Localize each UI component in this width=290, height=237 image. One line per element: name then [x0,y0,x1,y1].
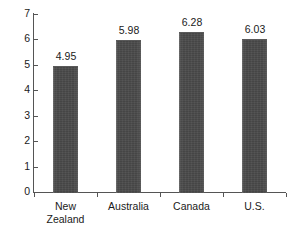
y-axis-tick [34,65,38,66]
bar-value-label: 4.95 [46,51,86,62]
bar [179,32,204,193]
bar [116,40,141,193]
y-axis-tick-label: 2 [12,135,30,146]
y-axis-tick [34,116,38,117]
bar-value-label: 6.03 [235,24,275,35]
bar-value-label: 5.98 [109,25,149,36]
x-axis-category-label: U.S. [223,200,286,213]
y-axis-tick-label: 1 [12,161,30,172]
x-axis-tick [160,193,161,197]
y-axis-tick-label: 3 [12,110,30,121]
y-axis-tick-label: 5 [12,59,30,70]
y-axis-tick [34,141,38,142]
x-axis-category-label: NewZealand [34,200,97,226]
bar [53,66,78,193]
y-axis-tick-label: 0 [12,186,30,197]
y-axis-tick-label: 6 [12,33,30,44]
category-label-line: U.S. [244,200,264,212]
y-axis-tick [34,90,38,91]
y-axis-tick-label: 7 [12,8,30,19]
bar-value-label: 6.28 [172,17,212,28]
y-axis-tick [34,14,38,15]
category-label-line: Australia [108,200,149,212]
x-axis-category-label: Australia [97,200,160,213]
y-axis-tick-label: 4 [12,84,30,95]
y-axis-tick [34,39,38,40]
x-axis-tick [223,193,224,197]
category-label-line: Zealand [34,213,97,226]
x-axis-tick [286,193,287,197]
category-label-line: New [55,200,76,212]
y-axis-tick [34,167,38,168]
x-axis-tick [97,193,98,197]
bar-chart: 01234567 4.955.986.286.03 NewZealandAust… [0,0,290,237]
bar [242,39,267,193]
x-axis-category-label: Canada [160,200,223,213]
x-axis-tick [34,193,35,197]
category-label-line: Canada [173,200,210,212]
